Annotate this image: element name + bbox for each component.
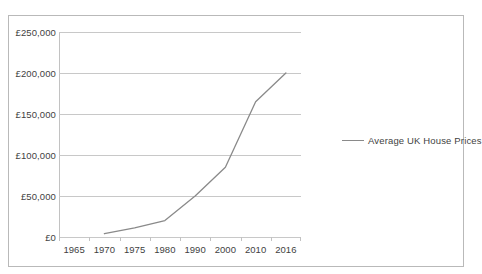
x-axis-tick bbox=[120, 237, 121, 241]
legend-line-swatch bbox=[342, 140, 364, 142]
x-axis-tick bbox=[89, 237, 90, 241]
x-axis-tick bbox=[150, 237, 151, 241]
x-axis-tick bbox=[271, 237, 272, 241]
x-tick-label: 1990 bbox=[185, 244, 206, 255]
x-tick-label: 2016 bbox=[275, 244, 296, 255]
x-axis-tick bbox=[241, 237, 242, 241]
series-line-average-uk-house-prices bbox=[104, 73, 286, 234]
x-tick-label: 1980 bbox=[154, 244, 175, 255]
series-line-chart bbox=[59, 32, 301, 237]
plot-area bbox=[59, 32, 301, 237]
x-axis-labels: 19651970197519801990200020102016 bbox=[59, 244, 301, 258]
y-tick-label: £0 bbox=[45, 232, 56, 243]
x-tick-label: 2010 bbox=[245, 244, 266, 255]
x-tick-label: 2000 bbox=[215, 244, 236, 255]
y-tick-label: £100,000 bbox=[16, 150, 56, 161]
x-tick-label: 1970 bbox=[94, 244, 115, 255]
y-tick-label: £150,000 bbox=[16, 109, 56, 120]
x-axis-tick bbox=[210, 237, 211, 241]
x-tick-label: 1975 bbox=[124, 244, 145, 255]
clipped-title-text bbox=[10, 0, 310, 6]
x-axis-tick bbox=[180, 237, 181, 241]
x-axis-tick bbox=[59, 237, 60, 241]
x-tick-label: 1965 bbox=[64, 244, 85, 255]
legend-item-label: Average UK House Prices bbox=[368, 135, 482, 146]
x-axis-ticks bbox=[59, 237, 301, 242]
chart-legend: Average UK House Prices bbox=[342, 135, 482, 146]
y-tick-label: £250,000 bbox=[16, 27, 56, 38]
x-axis-tick bbox=[300, 237, 301, 241]
chart-frame: £0£50,000£100,000£150,000£200,000£250,00… bbox=[8, 15, 464, 267]
y-tick-label: £200,000 bbox=[16, 68, 56, 79]
y-axis-labels: £0£50,000£100,000£150,000£200,000£250,00… bbox=[9, 32, 56, 237]
y-tick-label: £50,000 bbox=[21, 191, 56, 202]
